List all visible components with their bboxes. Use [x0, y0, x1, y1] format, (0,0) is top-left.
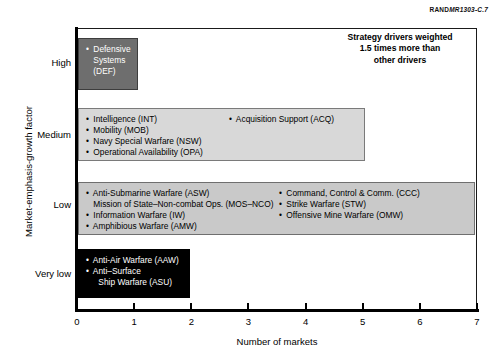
cluster-item: • Amphibious Warfare (AMW) — [86, 221, 273, 232]
x-tick-label: 7 — [467, 316, 487, 327]
x-tick-label: 2 — [181, 316, 201, 327]
cluster-item: • Intelligence (INT) — [86, 114, 203, 125]
cluster-item-column: • Acquisition Support (ACQ) — [229, 114, 334, 125]
source-id-code: MR1303-C.7 — [449, 6, 488, 13]
cluster-item-label: Anti-Submarine Warfare (ASW) — [91, 188, 209, 198]
cluster-item-column: • Anti-Submarine Warfare (ASW) Mission o… — [86, 188, 273, 232]
cluster-item-label: Defensive — [91, 44, 131, 54]
cluster-item: • Anti–Surface — [86, 266, 179, 277]
cluster-item: • Offensive Mine Warfare (OMW) — [279, 210, 420, 221]
cluster-box-low: • Anti-Submarine Warfare (ASW) Mission o… — [78, 182, 475, 235]
cluster-item-column: • Intelligence (INT)• Mobility (MOB)• Na… — [86, 114, 203, 158]
cluster-item-label: Acquisition Support (ACQ) — [234, 114, 334, 124]
x-tick-mark — [419, 303, 421, 310]
x-tick-mark — [190, 303, 192, 310]
y-tick-label-very-low: Very low — [3, 268, 71, 279]
cluster-item-label: Operational Availability (OPA) — [91, 147, 203, 157]
cluster-item-column: • Command, Control & Comm. (CCC)• Strike… — [279, 188, 420, 221]
cluster-item-label: Amphibious Warfare (AMW) — [91, 221, 197, 231]
y-axis-title: Market-emphasis-growth factor — [23, 57, 34, 287]
x-tick-mark — [362, 303, 364, 310]
x-axis-title: Number of markets — [77, 336, 477, 347]
x-tick-label: 4 — [296, 316, 316, 327]
cluster-item-label: Navy Special Warfare (NSW) — [91, 136, 201, 146]
cluster-box-medium: • Intelligence (INT)• Mobility (MOB)• Na… — [78, 108, 365, 161]
cluster-item: • Anti-Submarine Warfare (ASW) — [86, 188, 273, 199]
cluster-item: (DEF) — [86, 66, 131, 77]
cluster-item-label: Command, Control & Comm. (CCC) — [284, 188, 420, 198]
x-tick-label: 3 — [238, 316, 258, 327]
x-tick-mark — [133, 303, 135, 310]
cluster-item: • Anti-Air Warfare (AAW) — [86, 255, 179, 266]
cluster-item: • Mobility (MOB) — [86, 125, 203, 136]
x-tick-mark — [76, 303, 78, 310]
cluster-item-column: • Defensive Systems (DEF) — [86, 44, 131, 77]
cluster-item: Systems — [86, 55, 131, 66]
y-tick-label-high: High — [3, 57, 71, 68]
y-tick-label-medium: Medium — [3, 129, 71, 140]
cluster-item-label: Systems — [91, 55, 125, 65]
source-id-prefix: RAND — [430, 6, 450, 13]
x-tick-label: 6 — [410, 316, 430, 327]
annotation-line-2: 1.5 times more than — [330, 43, 470, 54]
cluster-box-very-low: • Anti-Air Warfare (AAW)• Anti–Surface S… — [78, 249, 190, 298]
annotation-line-1: Strategy drivers weighted — [330, 32, 470, 43]
cluster-item: • Strike Warfare (STW) — [279, 199, 420, 210]
cluster-item-label: Ship Warfare (ASU) — [96, 277, 172, 287]
cluster-item-label: Strike Warfare (STW) — [284, 199, 366, 209]
cluster-item: Ship Warfare (ASU) — [86, 277, 179, 288]
cluster-item: • Navy Special Warfare (NSW) — [86, 136, 203, 147]
cluster-item: • Command, Control & Comm. (CCC) — [279, 188, 420, 199]
cluster-item: • Operational Availability (OPA) — [86, 147, 203, 158]
cluster-box-high: • Defensive Systems (DEF) — [78, 38, 138, 90]
cluster-item: • Defensive — [86, 44, 131, 55]
cluster-item-column: • Anti-Air Warfare (AAW)• Anti–Surface S… — [86, 255, 179, 288]
cluster-item-label: Intelligence (INT) — [91, 114, 157, 124]
cluster-item-label: Anti–Surface — [91, 266, 141, 276]
x-tick-label: 5 — [353, 316, 373, 327]
source-identifier: RANDMR1303-C.7 — [430, 6, 488, 13]
x-tick-label: 1 — [124, 316, 144, 327]
cluster-item-label: Offensive Mine Warfare (OMW) — [284, 210, 403, 220]
cluster-item-label: Mission of State–Non-combat Ops. (MOS–NC… — [91, 199, 273, 209]
cluster-item-label: (DEF) — [91, 66, 116, 76]
cluster-item: • Information Warfare (IW) — [86, 210, 273, 221]
x-tick-mark — [476, 303, 478, 310]
chart-annotation: Strategy drivers weighted 1.5 times more… — [330, 32, 470, 66]
annotation-line-3: other drivers — [330, 55, 470, 66]
cluster-item: Mission of State–Non-combat Ops. (MOS–NC… — [86, 199, 273, 210]
x-tick-label: 0 — [67, 316, 87, 327]
x-tick-mark — [247, 303, 249, 310]
x-tick-mark — [305, 303, 307, 310]
cluster-item-label: Information Warfare (IW) — [91, 210, 185, 220]
cluster-item-label: Anti-Air Warfare (AAW) — [91, 255, 179, 265]
cluster-item: • Acquisition Support (ACQ) — [229, 114, 334, 125]
y-tick-label-low: Low — [3, 199, 71, 210]
cluster-item-label: Mobility (MOB) — [91, 125, 149, 135]
